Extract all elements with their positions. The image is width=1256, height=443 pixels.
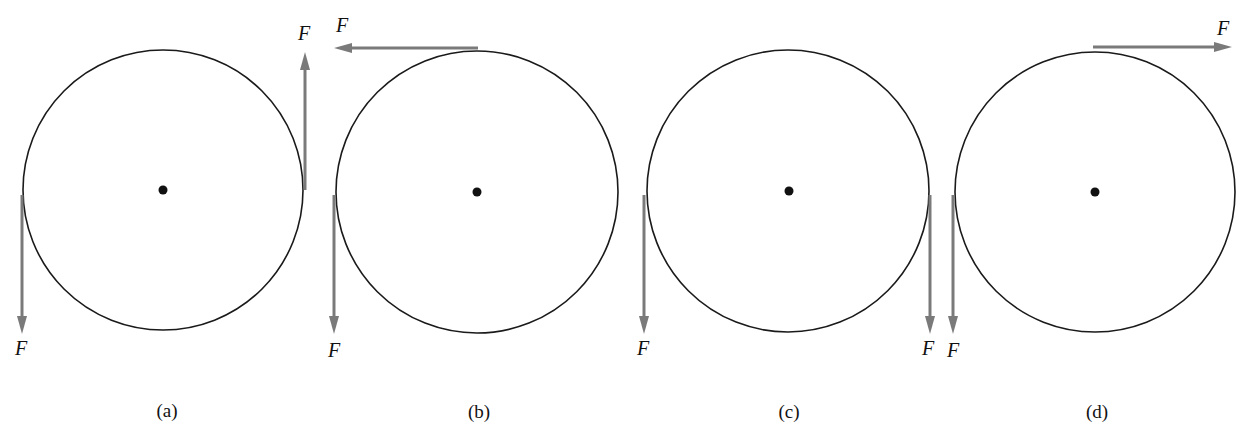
axle-dot	[473, 188, 482, 197]
force-label: F	[327, 339, 341, 361]
force-label: F	[636, 337, 650, 359]
panel-caption: (d)	[1086, 401, 1108, 423]
force-arrow-top-right	[1093, 42, 1232, 52]
panel-b: F F (b)	[327, 14, 618, 423]
panel-caption: (c)	[778, 401, 799, 423]
force-label: F	[1216, 17, 1230, 39]
panel-caption: (a)	[156, 400, 177, 422]
force-label: F	[921, 337, 935, 359]
force-diagram-figure: F F (a) F F (b) F	[0, 0, 1256, 443]
axle-dot	[159, 186, 168, 195]
axle-dot	[785, 187, 794, 196]
panel-d: F F (d)	[946, 17, 1235, 423]
panel-caption: (b)	[468, 401, 490, 423]
force-label: F	[946, 339, 960, 361]
force-label: F	[335, 14, 349, 36]
force-arrow-left-down	[639, 195, 649, 334]
force-label: F	[14, 337, 28, 359]
force-label: F	[297, 22, 311, 44]
panel-a: F F (a)	[14, 22, 311, 422]
axle-dot	[1091, 188, 1100, 197]
force-arrow-top-left	[334, 43, 478, 53]
panel-c: F F (c)	[636, 50, 935, 423]
